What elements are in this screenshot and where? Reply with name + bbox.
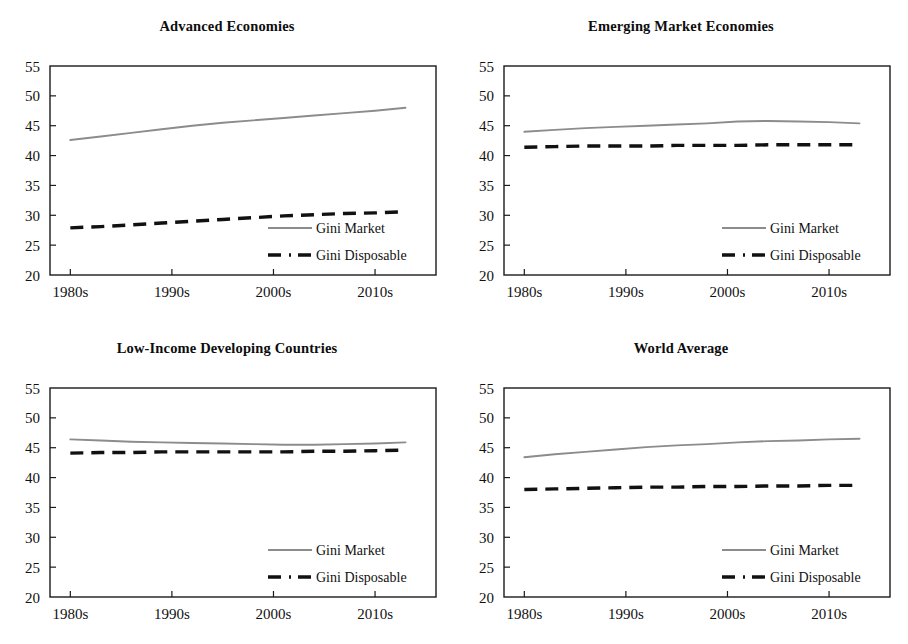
plot-area-4: 20253035404550551980s1990s2000s2010sGini… [454,322,908,644]
series-line-gini-disposable [524,145,859,147]
y-axis-tick-label: 55 [25,59,40,75]
y-axis-tick-label: 55 [25,381,40,397]
y-axis-tick-label: 40 [479,148,494,164]
y-axis-tick-label: 40 [25,148,40,164]
x-axis-tick-label: 1980s [506,284,542,300]
y-axis-tick-label: 35 [25,178,40,194]
y-axis-tick-label: 30 [479,208,494,224]
y-axis-tick-label: 40 [25,470,40,486]
x-axis-tick-label: 1980s [506,606,542,622]
x-axis-tick-label: 2000s [710,606,746,622]
y-axis-tick-label: 35 [479,500,494,516]
legend-label-gini-market: Gini Market [770,543,839,558]
y-axis-tick-label: 45 [479,118,494,134]
y-axis-tick-label: 20 [479,590,494,606]
series-line-gini-disposable [524,485,859,489]
figure-panel-grid: Advanced Economies 20253035404550551980s… [0,0,908,644]
y-axis-tick-label: 30 [25,530,40,546]
chart-panel-world-average: World Average 20253035404550551980s1990s… [454,322,908,644]
y-axis-tick-label: 45 [25,440,40,456]
y-axis-tick-label: 25 [25,238,40,254]
series-line-gini-market [524,121,859,132]
y-axis-tick-label: 45 [479,440,494,456]
legend-label-gini-market: Gini Market [770,221,839,236]
x-axis-tick-label: 2010s [811,284,847,300]
x-axis-tick-label: 2010s [811,606,847,622]
x-axis-tick-label: 1980s [52,284,88,300]
y-axis-tick-label: 35 [25,500,40,516]
y-axis-tick-label: 25 [479,560,494,576]
y-axis-tick-label: 20 [25,590,40,606]
y-axis-tick-label: 30 [479,530,494,546]
x-axis-tick-label: 2010s [357,284,393,300]
plot-frame [50,66,436,275]
x-axis-tick-label: 1990s [154,284,190,300]
y-axis-tick-label: 50 [479,88,494,104]
series-line-gini-market [524,439,859,458]
y-axis-tick-label: 55 [479,59,494,75]
y-axis-tick-label: 20 [25,268,40,284]
y-axis-tick-label: 25 [479,238,494,254]
plot-area-2: 20253035404550551980s1990s2000s2010sGini… [454,0,908,322]
x-axis-tick-label: 2000s [256,284,292,300]
y-axis-tick-label: 35 [479,178,494,194]
series-line-gini-market [70,108,405,140]
x-axis-tick-label: 2010s [357,606,393,622]
legend-label-gini-market: Gini Market [316,543,385,558]
plot-area-3: 20253035404550551980s1990s2000s2010sGini… [0,322,454,644]
y-axis-tick-label: 50 [479,410,494,426]
series-line-gini-disposable [70,450,405,453]
plot-frame [504,388,890,597]
x-axis-tick-label: 1980s [52,606,88,622]
legend-label-gini-market: Gini Market [316,221,385,236]
legend-label-gini-disposable: Gini Disposable [770,570,861,585]
plot-frame [50,388,436,597]
chart-panel-low-income-developing-countries: Low-Income Developing Countries 20253035… [0,322,454,644]
x-axis-tick-label: 1990s [608,284,644,300]
x-axis-tick-label: 2000s [256,606,292,622]
y-axis-tick-label: 40 [479,470,494,486]
y-axis-tick-label: 25 [25,560,40,576]
legend-label-gini-disposable: Gini Disposable [316,570,407,585]
y-axis-tick-label: 30 [25,208,40,224]
x-axis-tick-label: 1990s [154,606,190,622]
y-axis-tick-label: 20 [479,268,494,284]
legend-label-gini-disposable: Gini Disposable [316,248,407,263]
chart-panel-advanced-economies: Advanced Economies 20253035404550551980s… [0,0,454,322]
chart-panel-emerging-market-economies: Emerging Market Economies 20253035404550… [454,0,908,322]
plot-frame [504,66,890,275]
plot-area-1: 20253035404550551980s1990s2000s2010sGini… [0,0,454,322]
legend-label-gini-disposable: Gini Disposable [770,248,861,263]
y-axis-tick-label: 50 [25,410,40,426]
x-axis-tick-label: 1990s [608,606,644,622]
y-axis-tick-label: 45 [25,118,40,134]
x-axis-tick-label: 2000s [710,284,746,300]
series-line-gini-market [70,439,405,444]
y-axis-tick-label: 50 [25,88,40,104]
y-axis-tick-label: 55 [479,381,494,397]
